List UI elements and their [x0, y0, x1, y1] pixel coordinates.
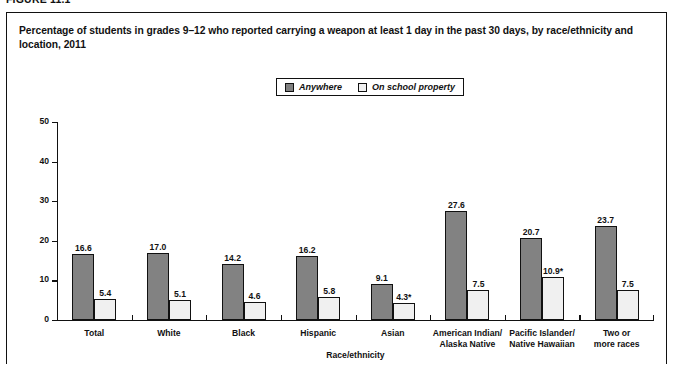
- bar-group: 20.710.9*Pacific Islander/Native Hawaiia…: [505, 122, 580, 320]
- bar-pair: 9.14.3*: [371, 122, 415, 320]
- bar-on-school-property[interactable]: 5.1: [169, 300, 191, 320]
- x-category-label-line: Two or: [569, 328, 665, 339]
- bar-value-label: 5.1: [174, 289, 186, 299]
- y-tick-label: 40: [39, 156, 49, 166]
- bar-group: 23.77.5Two ormore races: [579, 122, 654, 320]
- bar-on-school-property[interactable]: 5.8: [318, 297, 340, 320]
- legend-item-anywhere[interactable]: Anywhere: [285, 82, 342, 92]
- y-tick-label: 30: [39, 195, 49, 205]
- bar-on-school-property[interactable]: 4.6: [244, 302, 266, 320]
- bar-pair: 23.77.5: [595, 122, 639, 320]
- bar-value-label: 5.4: [99, 288, 111, 298]
- bar-group: 16.65.4Total: [57, 122, 132, 320]
- bar-pair: 17.05.1: [147, 122, 191, 320]
- bar-value-label: 16.6: [75, 243, 92, 253]
- bar-group: 9.14.3*Asian: [356, 122, 431, 320]
- bar-value-label: 17.0: [150, 242, 167, 252]
- bar-anywhere[interactable]: 20.7: [520, 238, 542, 320]
- bar-group: 14.24.6Black: [206, 122, 281, 320]
- bar-anywhere[interactable]: 27.6: [445, 211, 467, 320]
- bar-value-label: 10.9*: [543, 266, 563, 276]
- legend-swatch-anywhere: [285, 83, 294, 92]
- x-axis: [57, 320, 654, 321]
- bar-pair: 14.24.6: [222, 122, 266, 320]
- bar-on-school-property[interactable]: 7.5: [467, 290, 489, 320]
- x-tick: [430, 315, 431, 320]
- figure-title: Percentage of students in grades 9–12 wh…: [19, 24, 649, 52]
- legend-item-on-school-property[interactable]: On school property: [358, 82, 455, 92]
- y-tick-label: 20: [39, 235, 49, 245]
- y-tick-label: 10: [39, 274, 49, 284]
- bar-value-label: 27.6: [448, 200, 465, 210]
- bar-anywhere[interactable]: 14.2: [222, 264, 244, 320]
- bar-value-label: 4.3*: [396, 292, 411, 302]
- bar-group: 17.05.1White: [132, 122, 207, 320]
- x-tick: [579, 315, 580, 320]
- legend-label-on-school-property: On school property: [372, 82, 455, 92]
- legend-label-anywhere: Anywhere: [299, 82, 342, 92]
- bar-anywhere[interactable]: 16.6: [72, 254, 94, 320]
- bar-anywhere[interactable]: 23.7: [595, 226, 617, 320]
- x-tick: [505, 315, 506, 320]
- bar-pair: 27.67.5: [445, 122, 489, 320]
- bar-value-label: 5.8: [323, 286, 335, 296]
- figure-root: FIGURE 11.1 Percentage of students in gr…: [0, 0, 678, 365]
- bar-pair: 20.710.9*: [520, 122, 564, 320]
- bar-on-school-property[interactable]: 10.9*: [542, 277, 564, 320]
- bar-anywhere[interactable]: 17.0: [147, 253, 169, 320]
- x-category-label: Two ormore races: [569, 328, 665, 349]
- x-tick: [653, 315, 654, 320]
- x-tick: [281, 315, 282, 320]
- bar-value-label: 9.1: [376, 273, 388, 283]
- bar-value-label: 4.6: [249, 291, 261, 301]
- y-tick-label: 0: [44, 314, 49, 324]
- bar-pair: 16.25.8: [296, 122, 340, 320]
- x-tick: [206, 315, 207, 320]
- figure-number: FIGURE 11.1: [6, 0, 71, 5]
- y-tick-label: 50: [39, 116, 49, 126]
- legend-swatch-on-school-property: [358, 83, 367, 92]
- chart-legend: Anywhere On school property: [276, 78, 464, 96]
- bar-value-label: 23.7: [597, 215, 614, 225]
- bar-on-school-property[interactable]: 5.4: [94, 299, 116, 320]
- bar-group: 16.25.8Hispanic: [281, 122, 356, 320]
- x-tick: [356, 315, 357, 320]
- bar-value-label: 16.2: [299, 245, 316, 255]
- y-tick: 0: [52, 320, 57, 321]
- plot-area: Percent 01020304050 16.65.4Total17.05.1W…: [57, 122, 654, 320]
- x-axis-title: Race/ethnicity: [57, 350, 654, 360]
- bar-on-school-property[interactable]: 4.3*: [393, 303, 415, 320]
- bar-on-school-property[interactable]: 7.5: [617, 290, 639, 320]
- x-tick: [132, 315, 133, 320]
- bar-value-label: 14.2: [224, 253, 241, 263]
- bar-value-label: 7.5: [622, 279, 634, 289]
- x-category-label-line: more races: [569, 339, 665, 350]
- bar-value-label: 7.5: [472, 279, 484, 289]
- bar-anywhere[interactable]: 9.1: [371, 284, 393, 320]
- bar-pair: 16.65.4: [72, 122, 116, 320]
- bar-anywhere[interactable]: 16.2: [296, 256, 318, 320]
- bar-group: 27.67.5American Indian/Alaska Native: [430, 122, 505, 320]
- bar-value-label: 20.7: [523, 227, 540, 237]
